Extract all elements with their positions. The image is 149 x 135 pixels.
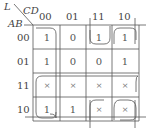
cell-01-11: 0	[86, 49, 112, 73]
cell-10-10: ×	[112, 97, 138, 121]
cell-11-10: ×	[112, 73, 138, 97]
cell-11-01: ×	[60, 73, 86, 97]
cell-10-01: 1	[60, 97, 86, 121]
cell-00-00: 1	[34, 25, 60, 49]
cell-11-00: ×	[34, 73, 60, 97]
cell-00-11: 1	[86, 25, 112, 49]
cell-01-01: 0	[60, 49, 86, 73]
cell-00-10: 1	[112, 25, 138, 49]
cell-10-00: 1	[34, 97, 60, 121]
cell-01-00: 1	[34, 49, 60, 73]
cell-01-10: 1	[112, 49, 138, 73]
cell-10-11: ×	[86, 97, 112, 121]
cell-00-01: 0	[60, 25, 86, 49]
cell-11-11: ×	[86, 73, 112, 97]
